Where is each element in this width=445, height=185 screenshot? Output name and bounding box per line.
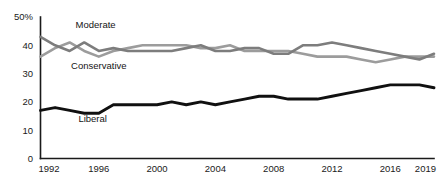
series-line-liberal (41, 85, 435, 113)
y-axis-tick-label: 20 (22, 96, 33, 107)
x-axis-tick-label: 2012 (321, 163, 342, 174)
x-axis-tick-label: 1992 (39, 163, 60, 174)
y-axis-tick-label: 0 (28, 153, 33, 164)
x-axis-tick-label: 1996 (88, 163, 109, 174)
y-axis-tick-label: 10 (22, 125, 33, 136)
x-axis-tick-label: 2016 (380, 163, 401, 174)
x-axis-tick-label: 2019 (415, 163, 436, 174)
x-axis-tick-label: 2008 (263, 163, 284, 174)
series-label-conservative: Conservative (71, 60, 126, 71)
chart-canvas: 01020304050%1992199620002004200820122016… (0, 0, 445, 185)
series-line-moderate (41, 42, 435, 62)
y-axis-tick-label: 40 (22, 40, 33, 51)
x-axis-tick-label: 2004 (205, 163, 226, 174)
series-label-liberal: Liberal (78, 113, 107, 124)
y-axis-tick-label: 30 (22, 68, 33, 79)
series-label-moderate: Moderate (75, 19, 115, 30)
x-axis-tick-label: 2000 (147, 163, 168, 174)
line-chart: 01020304050%1992199620002004200820122016… (0, 0, 445, 185)
y-axis-tick-label: 50% (14, 11, 34, 22)
